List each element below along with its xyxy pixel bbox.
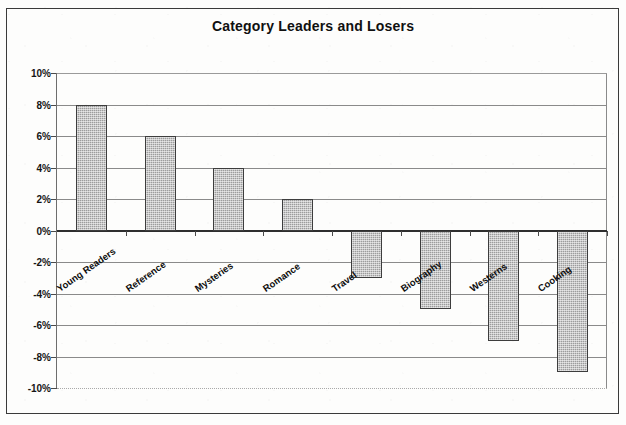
bar-slot [401, 73, 470, 388]
bar[interactable] [213, 168, 244, 231]
plot-area: Young ReadersReferenceMysteriesRomanceTr… [57, 73, 607, 388]
bar[interactable] [282, 199, 313, 231]
y-axis-tick-label: 4% [37, 162, 51, 173]
chart-screenshot: Category Leaders and Losers 10%8%6%4%2%0… [0, 0, 626, 425]
y-axis-tick-label: 0% [37, 225, 51, 236]
x-axis-tick-mark [607, 231, 608, 236]
y-axis-tick-label: -8% [33, 351, 51, 362]
bar-slot [470, 73, 539, 388]
chart-title: Category Leaders and Losers [0, 18, 626, 34]
gridline [57, 388, 607, 390]
bar-slot [195, 73, 264, 388]
bar-slot [538, 73, 607, 388]
bar-slot [332, 73, 401, 388]
bar-slot [126, 73, 195, 388]
y-axis-tick-label: -4% [33, 288, 51, 299]
y-axis-tick-label: -6% [33, 320, 51, 331]
bar[interactable] [557, 231, 588, 373]
y-axis-tick-label: 8% [37, 99, 51, 110]
bar-slot [57, 73, 126, 388]
y-axis-tick-label: 2% [37, 194, 51, 205]
y-axis-tick-label: 10% [31, 68, 51, 79]
bar[interactable] [351, 231, 382, 278]
bar[interactable] [145, 136, 176, 231]
bar-slot [263, 73, 332, 388]
y-axis-tick-label: 6% [37, 131, 51, 142]
y-axis-tick-label: -10% [28, 383, 51, 394]
bar[interactable] [76, 105, 107, 231]
y-axis: 10%8%6%4%2%0%-2%-4%-6%-8%-10% [7, 73, 51, 388]
bar[interactable] [488, 231, 519, 341]
y-axis-tick-label: -2% [33, 257, 51, 268]
